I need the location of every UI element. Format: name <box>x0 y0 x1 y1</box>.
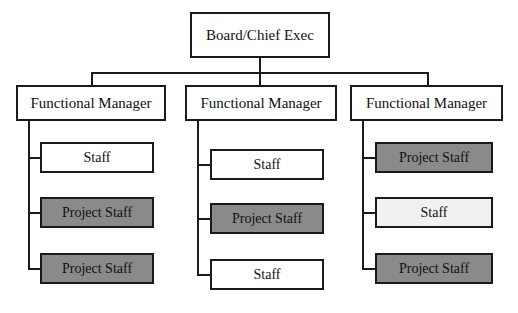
connector-root-drop <box>259 58 261 72</box>
leaf-node-2-2: Project Staff <box>210 203 324 234</box>
connector-branch-stem-2 <box>197 121 199 275</box>
org-chart-canvas: Board/Chief ExecFunctional ManagerStaffP… <box>0 0 518 313</box>
manager-node-2: Functional Manager <box>185 85 337 121</box>
manager-node-1: Functional Manager <box>16 85 166 121</box>
connector-leaf-stub-2-3 <box>197 274 210 276</box>
manager-node-3: Functional Manager <box>350 85 503 121</box>
connector-leaf-stub-3-3 <box>362 268 375 270</box>
connector-manager-drop-3 <box>427 72 429 85</box>
connector-leaf-stub-1-2 <box>28 212 40 214</box>
leaf-node-1-2: Project Staff <box>40 197 154 228</box>
connector-leaf-stub-1-1 <box>28 157 40 159</box>
connector-leaf-stub-1-3 <box>28 268 40 270</box>
connector-leaf-stub-2-1 <box>197 164 210 166</box>
leaf-node-2-1: Staff <box>210 149 324 180</box>
leaf-node-3-2: Staff <box>375 197 493 228</box>
leaf-node-1-3: Project Staff <box>40 253 154 284</box>
leaf-node-2-3: Staff <box>210 259 324 290</box>
connector-leaf-stub-3-1 <box>362 157 375 159</box>
connector-leaf-stub-2-2 <box>197 218 210 220</box>
leaf-node-1-1: Staff <box>40 142 154 173</box>
connector-branch-stem-3 <box>362 121 364 269</box>
root-node-board-chief-exec: Board/Chief Exec <box>190 12 330 58</box>
connector-manager-drop-2 <box>259 72 261 85</box>
connector-branch-stem-1 <box>28 121 30 269</box>
connector-leaf-stub-3-2 <box>362 212 375 214</box>
leaf-node-3-1: Project Staff <box>375 142 493 173</box>
leaf-node-3-3: Project Staff <box>375 253 493 284</box>
connector-manager-drop-1 <box>91 72 93 85</box>
